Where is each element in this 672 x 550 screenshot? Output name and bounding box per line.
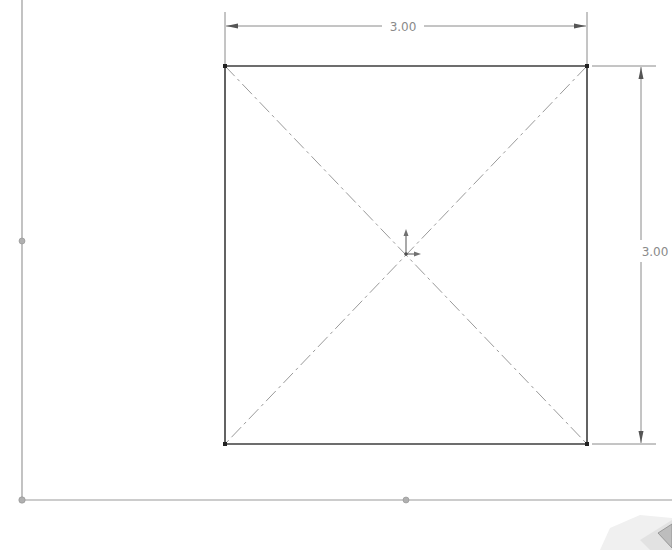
corner-point-top-right[interactable] [585,64,589,68]
view-orientation-triad-icon[interactable] [600,515,672,550]
dimension-height-value[interactable]: 3.00 [642,245,669,259]
reference-axes [19,0,672,503]
arrowhead-up-icon [639,67,644,79]
arrowhead-down-icon [639,431,644,443]
corner-point-top-left[interactable] [223,64,227,68]
vertical-line-midpoint[interactable] [19,238,25,244]
corner-point-bottom-right[interactable] [585,442,589,446]
dimension-width[interactable]: 3.00 [225,12,587,64]
sketch-canvas[interactable]: 3.00 3.00 [0,0,672,550]
dimension-height[interactable]: 3.00 [592,66,668,444]
arrowhead-right-icon [574,24,586,29]
horizontal-line-midpoint[interactable] [403,497,409,503]
arrowhead-left-icon [226,24,238,29]
dimension-width-value[interactable]: 3.00 [390,20,417,34]
axis-corner-point[interactable] [19,497,25,503]
corner-point-bottom-left[interactable] [223,442,227,446]
